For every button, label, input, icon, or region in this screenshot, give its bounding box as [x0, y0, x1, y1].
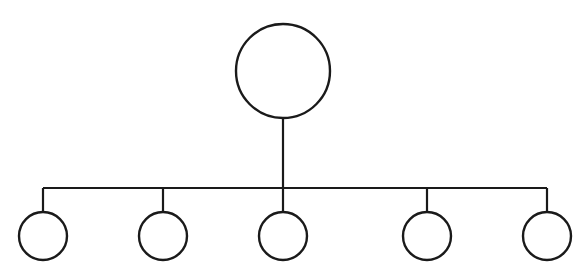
child-node-circle-2	[139, 212, 187, 260]
child-node-circle-4	[403, 212, 451, 260]
child-node-circle-1	[19, 212, 67, 260]
diagram-nodes	[19, 24, 571, 260]
hierarchy-diagram	[0, 0, 584, 276]
root-node-circle	[236, 24, 330, 118]
child-node-circle-5	[523, 212, 571, 260]
connector-lines	[43, 118, 547, 212]
child-node-circle-3	[259, 212, 307, 260]
